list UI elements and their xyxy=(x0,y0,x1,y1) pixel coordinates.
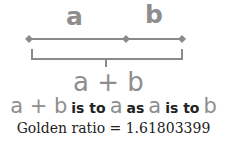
ratio-sum: a + b xyxy=(10,94,67,118)
golden-ratio-caption: Golden ratio = 1.61803399 xyxy=(0,120,227,136)
segment-b-label: b xyxy=(145,2,163,27)
division-point-icon xyxy=(122,35,130,43)
ratio-word-is-to: is to xyxy=(71,100,105,116)
ratio-b: b xyxy=(204,94,217,118)
ratio-a: a xyxy=(110,94,123,118)
left-endpoint-icon xyxy=(25,35,33,43)
segment-a-label: a xyxy=(66,4,83,29)
ratio-word-as: as xyxy=(127,100,145,116)
sum-bracket xyxy=(32,49,182,59)
right-endpoint-icon xyxy=(178,35,186,43)
ratio-statement: a + b is to a as a is to b xyxy=(0,96,227,117)
sum-label: a + b xyxy=(73,69,144,95)
ratio-a-second: a xyxy=(148,94,161,118)
ratio-word-is-to-second: is to xyxy=(165,100,199,116)
